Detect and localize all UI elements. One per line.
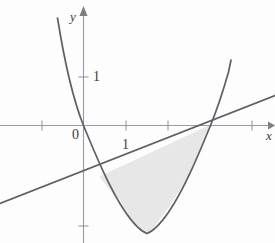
shaded-region: [99, 125, 210, 234]
y-axis-label: y: [70, 10, 76, 23]
origin-label: 0: [72, 128, 79, 142]
x-axis-label: x: [266, 129, 272, 142]
y-axis-arrowhead: [80, 6, 88, 16]
figure-canvas: 0 1 1 y x: [0, 0, 275, 243]
plot-area: [0, 0, 275, 243]
y-axis-tick-label-1: 1: [93, 70, 100, 84]
x-axis-tick-label-1: 1: [122, 138, 129, 152]
